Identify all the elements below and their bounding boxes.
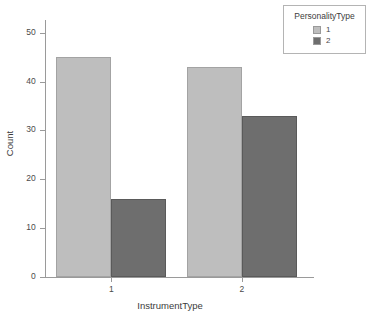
- x-tick-mark: [111, 278, 112, 282]
- y-axis-title: Count: [4, 104, 15, 184]
- x-tick-label: 2: [222, 284, 262, 294]
- y-tick-mark: [40, 277, 45, 278]
- bar-1-series-2: [111, 199, 166, 277]
- legend-item-1[interactable]: 1: [290, 25, 359, 34]
- y-tick-mark: [40, 130, 45, 131]
- legend-items: 12: [290, 25, 359, 45]
- bar-chart: 01020304050 12 InstrumentType Count Pers…: [0, 0, 373, 322]
- legend-item-2[interactable]: 2: [290, 36, 359, 45]
- bar-2-series-2: [242, 116, 297, 277]
- y-tick-mark: [40, 179, 45, 180]
- bar-1-series-1: [56, 57, 111, 277]
- legend-title: PersonalityType: [290, 11, 359, 21]
- x-axis-title: InstrumentType: [0, 300, 340, 311]
- legend-swatch-icon: [313, 37, 321, 45]
- y-tick-mark: [40, 228, 45, 229]
- y-tick-label: 50: [0, 27, 36, 37]
- x-tick-label: 1: [91, 284, 131, 294]
- legend-item-label: 2: [326, 36, 336, 45]
- bar-2-series-1: [187, 67, 242, 277]
- legend-item-label: 1: [326, 25, 336, 34]
- x-axis-line: [45, 277, 314, 278]
- legend: PersonalityType 12: [283, 5, 366, 54]
- plot-area: [46, 23, 307, 277]
- y-tick-label: 0: [0, 271, 36, 281]
- x-tick-mark: [242, 278, 243, 282]
- y-tick-mark: [40, 33, 45, 34]
- y-tick-label: 10: [0, 222, 36, 232]
- legend-swatch-icon: [313, 26, 321, 34]
- y-tick-mark: [40, 82, 45, 83]
- y-tick-label: 40: [0, 76, 36, 86]
